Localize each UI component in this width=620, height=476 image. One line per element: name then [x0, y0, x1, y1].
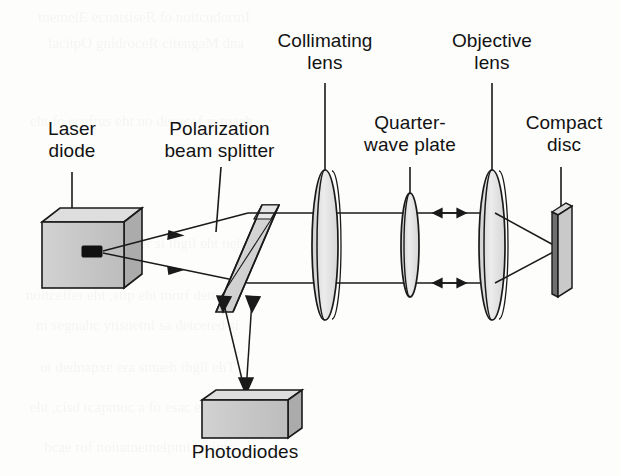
compact-disc [552, 203, 572, 297]
beam-splitter-interface [219, 212, 276, 300]
photodiodes-top-face [202, 390, 302, 400]
quarter-wave-plate [401, 193, 419, 297]
label-collimating-lens: Collimating lens [262, 30, 388, 74]
compact-disc-front-edge [552, 212, 558, 297]
collimating-lens-body [312, 170, 338, 320]
objective-lens-body [479, 170, 505, 320]
label-objective-lens: Objective lens [436, 30, 548, 74]
label-quarter-wave-plate: Quarter- wave plate [345, 112, 475, 156]
beam-lower-outgoing-arrowhead [168, 267, 182, 274]
label-laser-diode: Laser diode [18, 118, 126, 162]
beam-reflected-right-arrowhead [246, 296, 260, 312]
compact-disc-face [558, 206, 572, 297]
laser-emitter [82, 246, 102, 257]
label-photodiodes: Photodiodes [185, 441, 305, 463]
collimating-lens [312, 170, 341, 320]
label-polarization-beam-splitter: Polarization beam splitter [152, 118, 287, 162]
photodiodes [202, 390, 302, 438]
leader-beam-splitter [216, 167, 221, 232]
label-compact-disc: Compact disc [512, 112, 616, 156]
laser-diode [42, 208, 142, 288]
beam-group-reflected [217, 296, 260, 394]
figure-canvas: tnemelE ecnatsiseR fo noitcudortnI lacit… [0, 0, 620, 476]
photodiodes-front-face [202, 400, 288, 438]
beam-group-collimated [248, 213, 495, 283]
objective-lens [479, 170, 508, 320]
laser-diode-side-face [124, 208, 142, 288]
bidirectional-arrows [437, 213, 462, 283]
